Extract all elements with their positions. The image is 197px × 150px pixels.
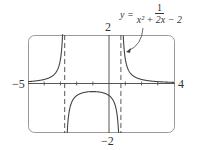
y-max-label: 2 — [105, 21, 111, 33]
equation-lhs: y = — [120, 9, 134, 20]
x-max-label: 4 — [178, 78, 184, 90]
y-min-label: −2 — [101, 135, 114, 147]
equation-denominator: x² + 2x − 2 — [137, 14, 182, 26]
x-min-label: −5 — [12, 78, 25, 90]
arrowhead-icon — [126, 48, 131, 53]
viewing-window-frame — [29, 36, 175, 133]
equation-numerator: 1 — [155, 2, 164, 14]
pointer-arrow — [128, 28, 143, 51]
equation-label: y = 1 x² + 2x − 2 — [120, 2, 182, 26]
